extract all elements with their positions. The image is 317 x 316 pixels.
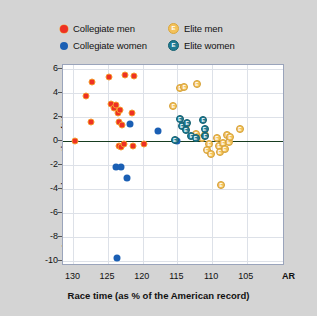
data-point-elite-women: E bbox=[201, 132, 209, 140]
data-point-elite-men: E bbox=[169, 102, 177, 110]
legend-item-collegiate-men: Collegiate men bbox=[60, 23, 168, 34]
x-tick-label-ar: AR bbox=[269, 271, 309, 281]
data-point-elite-women: E bbox=[183, 119, 191, 127]
chart-legend: Collegiate men E Elite men Collegiate wo… bbox=[60, 20, 260, 56]
y-tick-label: -2 bbox=[12, 159, 58, 169]
legend-item-collegiate-women: Collegiate women bbox=[60, 40, 168, 51]
legend-label-collegiate-men: Collegiate men bbox=[73, 23, 135, 34]
y-tick-label: -8 bbox=[12, 231, 58, 241]
collegiate-women-marker-icon bbox=[60, 42, 68, 50]
elite-men-marker-icon: E bbox=[168, 23, 179, 34]
data-point-collegiate-men bbox=[130, 72, 137, 79]
data-point-collegiate-men bbox=[141, 141, 148, 148]
chart-figure: Collegiate men E Elite men Collegiate wo… bbox=[12, 12, 305, 304]
x-tick-label: 105 bbox=[226, 271, 266, 281]
gridline-horizontal bbox=[63, 93, 283, 94]
data-point-collegiate-women bbox=[118, 164, 125, 171]
data-point-collegiate-men bbox=[71, 137, 78, 144]
data-point-elite-men: E bbox=[221, 145, 229, 153]
data-point-collegiate-men bbox=[106, 74, 113, 81]
legend-row-2: Collegiate women E Elite women bbox=[60, 37, 260, 54]
legend-item-elite-men: E Elite men bbox=[168, 23, 223, 34]
data-point-collegiate-men bbox=[89, 78, 96, 85]
gridline-horizontal bbox=[63, 117, 283, 118]
gridline-vertical bbox=[247, 65, 248, 264]
data-point-collegiate-men bbox=[121, 141, 128, 148]
legend-label-collegiate-women: Collegiate women bbox=[73, 40, 147, 51]
gridline-horizontal bbox=[63, 189, 283, 190]
data-point-elite-men: E bbox=[180, 83, 188, 91]
y-tick-label: 0 bbox=[12, 135, 58, 145]
gridline-vertical bbox=[143, 65, 144, 264]
y-tick-label: 4 bbox=[12, 87, 58, 97]
data-point-collegiate-men bbox=[116, 106, 123, 113]
gridline-vertical bbox=[177, 65, 178, 264]
data-point-collegiate-men bbox=[88, 118, 95, 125]
gridline-vertical bbox=[73, 65, 74, 264]
gridline-horizontal bbox=[63, 213, 283, 214]
legend-label-elite-men: Elite men bbox=[184, 23, 223, 34]
data-point-elite-men: E bbox=[193, 80, 201, 88]
data-point-collegiate-men bbox=[118, 122, 125, 129]
data-point-elite-men: E bbox=[207, 150, 215, 158]
data-point-elite-women: E bbox=[192, 134, 200, 142]
gridline-horizontal bbox=[63, 69, 283, 70]
data-point-elite-men: E bbox=[236, 125, 244, 133]
collegiate-men-marker-icon bbox=[60, 25, 68, 33]
legend-label-elite-women: Elite women bbox=[184, 40, 235, 51]
data-point-collegiate-men bbox=[130, 142, 137, 149]
plot-area: EEEEEEEEEEEEEEEEEEEEEEEEEEEEEEE bbox=[62, 64, 284, 265]
data-point-elite-women: E bbox=[171, 136, 179, 144]
legend-row-1: Collegiate men E Elite men bbox=[60, 20, 260, 37]
y-tick-label: 2 bbox=[12, 111, 58, 121]
elite-women-marker-icon: E bbox=[168, 40, 179, 51]
y-tick-label: -6 bbox=[12, 207, 58, 217]
data-point-elite-men: E bbox=[217, 181, 225, 189]
legend-item-elite-women: E Elite women bbox=[168, 40, 235, 51]
y-tick-label: -4 bbox=[12, 183, 58, 193]
plot-wrapper: Improvement in race time (%) 6420-2-4-6-… bbox=[12, 58, 305, 304]
data-point-collegiate-women bbox=[114, 254, 121, 261]
data-point-collegiate-men bbox=[129, 110, 136, 117]
data-point-collegiate-women bbox=[126, 120, 133, 127]
data-point-elite-women: E bbox=[199, 116, 207, 124]
data-point-collegiate-women bbox=[123, 175, 130, 182]
data-point-collegiate-men bbox=[82, 93, 89, 100]
gridline-vertical bbox=[212, 65, 213, 264]
gridline-vertical bbox=[108, 65, 109, 264]
data-point-elite-men: E bbox=[226, 133, 234, 141]
x-axis-label: Race time (as % of the American record) bbox=[12, 290, 305, 301]
gridline-horizontal bbox=[63, 237, 283, 238]
gridline-horizontal bbox=[63, 261, 283, 262]
gridline-horizontal bbox=[63, 165, 283, 166]
y-tick-label: -10 bbox=[12, 255, 58, 265]
data-point-collegiate-men bbox=[121, 71, 128, 78]
y-tick-label: 6 bbox=[12, 63, 58, 73]
data-point-collegiate-women bbox=[155, 128, 162, 135]
